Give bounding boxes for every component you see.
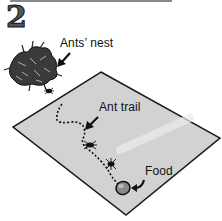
surface-mat [13,72,220,215]
ants-nest-icon [4,41,62,91]
label-ant-trail: Ant trail [99,100,141,114]
step-number: 2 [6,2,27,32]
label-food: Food [145,164,173,178]
label-ants-nest: Ants’ nest [60,36,113,50]
pointer-arrow-icon [57,53,70,67]
ant-trail-diagram: 2 Ants’ nest Ant trail Food [0,0,222,221]
